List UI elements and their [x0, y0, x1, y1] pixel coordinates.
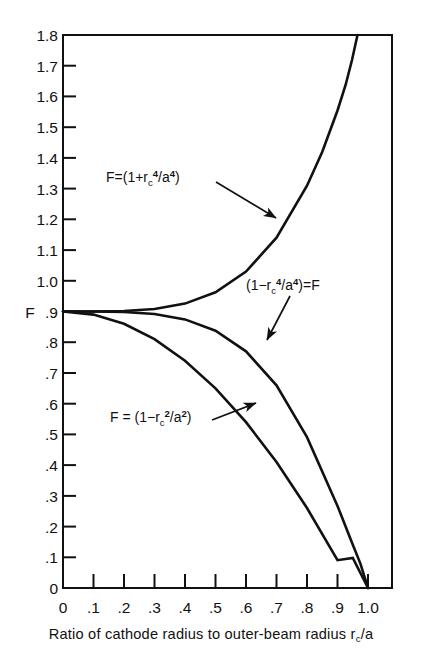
y-axis-label: F [25, 304, 34, 321]
y-tick-label: .5 [45, 426, 58, 443]
upper-label-mid: /a [158, 169, 170, 185]
x-tick-label: .3 [148, 599, 161, 616]
x-tick-label: .9 [331, 599, 344, 616]
lower-label-mid: /a [170, 409, 182, 425]
x-tick-label: .4 [179, 599, 192, 616]
y-tick-label: 0 [49, 580, 58, 597]
figure-container: 1.8 1.7 1.6 1.5 1.4 1.3 1.2 1.1 1.0 .9 .… [0, 0, 422, 661]
y-tick-label: .7 [45, 365, 58, 382]
y-tick-label: .6 [45, 396, 58, 413]
upper-label-tail: ) [175, 169, 180, 185]
y-tick-label: .3 [45, 488, 58, 505]
x-tick-label: .6 [240, 599, 253, 616]
caption-lead: Ratio of cathode radius to outer-beam ra… [49, 626, 356, 642]
y-tick-label: 1.8 [36, 27, 58, 44]
y-tick-label: .2 [45, 519, 58, 536]
lower-label-lead: F = (1−r [110, 409, 160, 425]
y-tick-label: 1.3 [36, 181, 58, 198]
x-tick-label: 1.0 [357, 599, 379, 616]
y-tick-label: .8 [45, 334, 58, 351]
lower-label-tail: ) [187, 409, 192, 425]
x-tick-label: .7 [270, 599, 283, 616]
x-tick-label: .5 [209, 599, 222, 616]
x-tick-label: .8 [301, 599, 314, 616]
caption-tail: /a [361, 626, 374, 642]
middle-label-lead: (1−r [246, 277, 272, 293]
x-tick-labels: 0 .1 .2 .3 .4 .5 .6 .7 .8 .9 1.0 [59, 599, 379, 616]
y-tick-label: .1 [45, 549, 58, 566]
x-axis-caption: Ratio of cathode radius to outer-beam ra… [0, 626, 422, 644]
y-tick-label: 1.7 [36, 58, 58, 75]
y-tick-label: 1.1 [36, 242, 58, 259]
y-tick-label: 1.6 [36, 88, 58, 105]
chart-svg: 1.8 1.7 1.6 1.5 1.4 1.3 1.2 1.1 1.0 .9 .… [0, 0, 422, 661]
x-tick-label: .1 [87, 599, 100, 616]
middle-label-mid: /a [281, 277, 293, 293]
x-tick-label: 0 [59, 599, 68, 616]
y-tick-label: 1.0 [36, 273, 58, 290]
upper-label-lead: F=(1+r [106, 169, 148, 185]
y-tick-label: 1.4 [36, 150, 58, 167]
y-tick-label: 1.5 [36, 119, 58, 136]
y-tick-label: .9 [45, 304, 58, 321]
y-tick-labels: 1.8 1.7 1.6 1.5 1.4 1.3 1.2 1.1 1.0 .9 .… [36, 27, 58, 597]
middle-label-tail: )=F [298, 277, 319, 293]
x-tick-label: .2 [118, 599, 131, 616]
y-tick-label: 1.2 [36, 211, 58, 228]
y-tick-label: .4 [45, 457, 58, 474]
